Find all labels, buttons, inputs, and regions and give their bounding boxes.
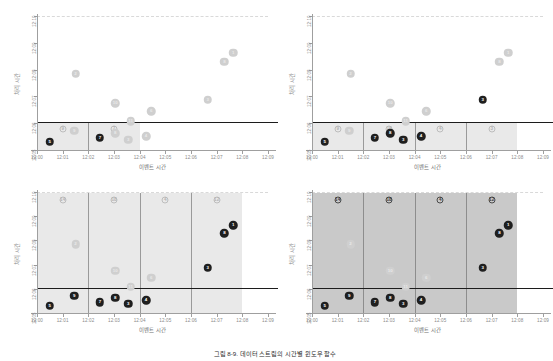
window-count-label: 14	[334, 197, 341, 204]
data-point: 5	[46, 301, 55, 310]
x-tick-label: 12:02	[82, 155, 94, 160]
x-tick-label: 12:05	[159, 155, 171, 160]
x-tick	[517, 314, 518, 317]
data-point: 10	[111, 266, 120, 275]
x-tick	[88, 314, 89, 317]
x-tick	[268, 314, 269, 317]
y-tick-label: 12:09	[307, 42, 312, 58]
data-point: 7	[96, 298, 105, 307]
y-tick-label: 12:08	[32, 69, 37, 85]
x-tick	[415, 314, 416, 317]
x-tick-label: 12:04	[409, 318, 421, 323]
x-tick-label: 12:08	[236, 318, 248, 323]
x-tick	[440, 151, 441, 154]
data-point: 8	[495, 57, 504, 66]
plot-area: 12:0012:0112:0212:0312:0412:0512:0612:07…	[275, 180, 550, 342]
x-tick-label: 12:09	[537, 318, 549, 323]
scatter-panel-tumbling-unsealed: 12:0012:0112:0212:0312:0412:0512:0612:07…	[0, 2, 275, 180]
x-tick	[165, 151, 166, 154]
x-tick	[363, 151, 364, 154]
data-point: 9	[345, 126, 354, 135]
x-axis-label: 이벤트 시간	[414, 163, 441, 171]
data-point: 3	[124, 300, 133, 309]
y-tick-label: 12:10	[307, 192, 312, 208]
x-tick	[466, 151, 467, 154]
y-tick-label: 12:10	[32, 16, 37, 32]
data-point: 3	[124, 136, 133, 145]
y-axis-label: 처리 시간	[13, 240, 21, 268]
data-point: 4	[417, 296, 426, 305]
data-point: 8	[386, 294, 395, 303]
data-point: 2	[346, 240, 355, 249]
x-tick	[338, 151, 339, 154]
data-point: 7	[96, 134, 105, 143]
y-tick-label: 12:08	[32, 240, 37, 256]
scatter-panel-tumbling-complete: 12:0012:0112:0212:0312:0412:0512:0612:07…	[275, 180, 550, 342]
x-tick	[268, 151, 269, 154]
data-point: 2	[71, 69, 80, 78]
data-point: 3	[203, 95, 212, 104]
figure-caption: 그림 8-9. 데이터 스트림의 시간별 윈도우 함수	[0, 349, 550, 358]
data-point: 6	[147, 107, 156, 116]
data-point: 5	[321, 138, 330, 147]
data-point: 3	[399, 136, 408, 145]
plot-area: 12:0012:0112:0212:0312:0412:0512:0612:07…	[0, 2, 275, 180]
y-tick-label: 12:06	[307, 123, 312, 139]
top-gridline	[312, 16, 543, 17]
window-divider	[88, 193, 89, 313]
top-gridline	[312, 192, 543, 193]
x-tick-label: 12:07	[211, 318, 223, 323]
data-point: 10	[386, 99, 395, 108]
y-axis-line	[312, 190, 313, 313]
y-tick-label: 12:08	[307, 240, 312, 256]
window-divider	[363, 193, 364, 313]
y-tick-label: 12:05	[307, 313, 312, 329]
x-tick-label: 12:04	[134, 318, 146, 323]
x-tick	[312, 151, 313, 154]
watermark-threshold-line	[312, 122, 553, 123]
data-point: 10	[386, 266, 395, 275]
x-tick	[37, 314, 38, 317]
x-tick	[543, 151, 544, 154]
x-tick	[492, 151, 493, 154]
data-point: 7	[371, 298, 380, 307]
data-point: 8	[495, 229, 504, 238]
top-gridline	[37, 16, 268, 17]
y-tick-label: 12:06	[32, 288, 37, 304]
data-point: 11	[401, 117, 410, 126]
watermark-threshold-line	[312, 288, 553, 289]
x-axis-label: 이벤트 시간	[139, 326, 166, 334]
y-tick-label: 12:08	[307, 69, 312, 85]
x-tick	[191, 314, 192, 317]
x-tick	[140, 314, 141, 317]
window-divider	[466, 193, 467, 313]
x-tick-label: 12:05	[434, 318, 446, 323]
x-axis-line	[306, 150, 551, 151]
window-divider	[415, 193, 416, 313]
data-point: 1	[229, 221, 238, 230]
x-tick	[389, 314, 390, 317]
data-point: 4	[142, 132, 151, 141]
data-point: 11	[126, 283, 135, 292]
x-tick-label: 12:08	[511, 318, 523, 323]
y-tick-label: 12:10	[32, 192, 37, 208]
data-point: 1	[229, 49, 238, 58]
y-axis-line	[37, 14, 38, 150]
data-point: 6	[422, 107, 431, 116]
y-axis-label: 처리 시간	[288, 240, 296, 268]
x-tick	[543, 314, 544, 317]
data-point: 9	[70, 126, 79, 135]
window-count-label: 14	[59, 197, 66, 204]
watermark-threshold-line	[37, 288, 278, 289]
x-tick	[114, 314, 115, 317]
data-point: 4	[417, 132, 426, 141]
y-tick-label: 12:09	[32, 42, 37, 58]
data-point: 6	[147, 274, 156, 283]
x-tick	[63, 151, 64, 154]
data-point: 5	[321, 301, 330, 310]
x-tick	[440, 314, 441, 317]
data-point: 10	[111, 99, 120, 108]
x-tick	[415, 151, 416, 154]
y-axis-line	[312, 14, 313, 150]
